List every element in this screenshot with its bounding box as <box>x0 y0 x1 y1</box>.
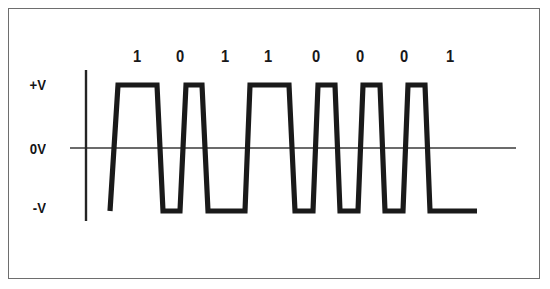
axis-label-plus-v: +V <box>16 77 46 93</box>
axis-label-zero-v: 0V <box>16 141 46 157</box>
axis-label-minus-v: -V <box>16 200 46 216</box>
waveform-plot-svg <box>0 0 550 289</box>
bit-label-4: 0 <box>305 48 327 66</box>
bit-label-5: 0 <box>349 48 371 66</box>
waveform-figure: +V 0V -V 1 0 1 1 0 0 0 1 <box>0 0 550 289</box>
bit-label-3: 1 <box>257 48 279 66</box>
bit-label-1: 0 <box>169 48 191 66</box>
bit-label-7: 1 <box>439 48 461 66</box>
bit-label-6: 0 <box>393 48 415 66</box>
bit-label-0: 1 <box>126 48 148 66</box>
bit-label-2: 1 <box>214 48 236 66</box>
